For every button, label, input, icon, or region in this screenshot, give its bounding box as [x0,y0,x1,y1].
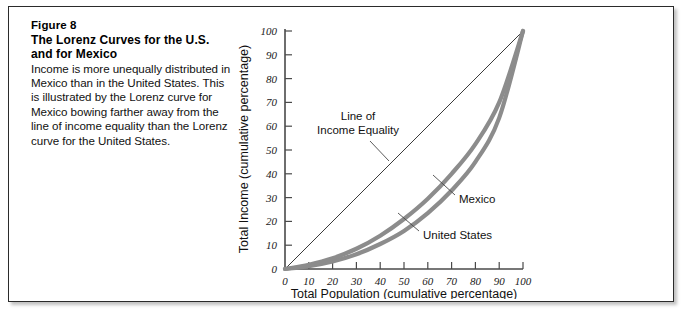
y-axis-title: Total Income (cumulative percentage) [237,45,251,253]
y-tick-label: 70 [266,96,278,108]
y-tick-label: 80 [266,73,278,85]
y-axis-tick-labels: 0102030405060708090100 [261,25,278,275]
x-tick-label: 20 [327,275,339,287]
annotation-equality-line-2: Income Equality [317,124,399,136]
y-tick-label: 40 [266,168,278,180]
x-tick-label: 40 [375,275,387,287]
y-tick-label: 100 [261,25,278,37]
x-tick-label: 50 [399,275,411,287]
x-tick-label: 30 [350,275,363,287]
equality-leader-line [370,141,389,161]
y-axis-ticks [285,31,292,245]
x-tick-label: 100 [515,275,532,287]
x-tick-label: 80 [470,275,482,287]
figure-number: Figure 8 [31,19,231,33]
x-axis-tick-labels: 0102030405060708090100 [282,275,532,287]
x-tick-label: 70 [446,275,458,287]
figure-title-line-2: and for Mexico [31,47,231,61]
x-tick-label: 0 [282,275,288,287]
y-tick-label: 0 [272,263,278,275]
y-tick-label: 50 [266,144,278,156]
figure-title-line-1: The Lorenz Curves for the U.S. [31,33,231,47]
annotation-mexico: Mexico [459,193,495,205]
chart-svg: 0102030405060708090100 01020304050607080… [237,15,667,299]
annotation-equality-line-1: Line of [341,110,376,122]
figure-frame: Figure 8 The Lorenz Curves for the U.S. … [8,6,674,302]
y-tick-label: 20 [266,215,278,227]
figure-description: Income is more unequally distributed in … [31,62,231,148]
x-axis-ticks [309,262,523,269]
x-tick-label: 60 [422,275,434,287]
figure-caption: Figure 8 The Lorenz Curves for the U.S. … [31,19,231,148]
y-tick-label: 30 [265,192,278,204]
y-tick-label: 10 [266,239,278,251]
annotation-united-states: United States [423,229,492,241]
x-tick-label: 10 [303,275,315,287]
lorenz-curve-chart: 0102030405060708090100 01020304050607080… [237,15,667,299]
x-axis-title: Total Population (cumulative percentage) [291,287,518,299]
y-tick-label: 60 [266,120,278,132]
x-tick-label: 90 [494,275,506,287]
y-tick-label: 90 [266,49,278,61]
